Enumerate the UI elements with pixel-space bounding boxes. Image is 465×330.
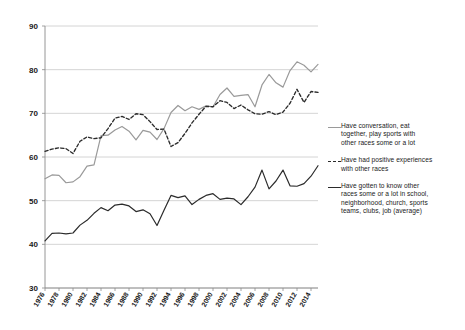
x-axis-tick-label: 1980 bbox=[60, 291, 74, 308]
x-axis-tick: 1996 bbox=[172, 291, 186, 308]
x-axis-tick-label: 2000 bbox=[200, 291, 214, 308]
x-axis-tick-label: 2014 bbox=[298, 291, 312, 308]
y-axis-tick-label: 90 bbox=[29, 22, 38, 31]
legend-label-1: Have conversation, eat together, play sp… bbox=[341, 122, 415, 147]
y-axis-tick-label: 60 bbox=[29, 153, 38, 162]
line-chart: 3040506070809019761978198019821984198619… bbox=[0, 0, 465, 330]
x-axis-tick-label: 1994 bbox=[158, 291, 172, 308]
x-axis-tick: 2010 bbox=[270, 291, 284, 308]
x-axis-tick: 1990 bbox=[130, 291, 144, 308]
x-axis-tick: 1976 bbox=[32, 291, 46, 308]
x-axis-tick: 1978 bbox=[46, 291, 60, 308]
legend-swatch-2-icon bbox=[328, 157, 341, 166]
x-axis-tick: 2012 bbox=[284, 291, 298, 308]
x-axis-tick-label: 1992 bbox=[144, 291, 158, 308]
legend-swatch-3-icon bbox=[328, 183, 341, 192]
series-line-2 bbox=[45, 89, 318, 153]
x-axis-tick-label: 1982 bbox=[74, 291, 88, 308]
x-axis-tick-label: 2010 bbox=[270, 291, 284, 308]
x-axis-tick: 1980 bbox=[60, 291, 74, 308]
x-axis-tick-label: 2004 bbox=[228, 291, 242, 308]
legend-item-3: Have gotten to know other races some or … bbox=[328, 182, 465, 216]
x-axis-tick: 1988 bbox=[116, 291, 130, 308]
x-axis-tick: 2006 bbox=[242, 291, 256, 308]
x-axis-tick-label: 2008 bbox=[256, 291, 270, 308]
x-axis-tick: 1984 bbox=[88, 291, 102, 308]
x-axis-tick-label: 2012 bbox=[284, 291, 298, 308]
x-axis-tick: 2004 bbox=[228, 291, 242, 308]
series-line-1 bbox=[45, 62, 318, 183]
x-axis-tick-label: 1984 bbox=[88, 291, 102, 308]
y-axis-tick-label: 30 bbox=[29, 284, 38, 293]
legend-item-2: Have had positive experiences with other… bbox=[328, 156, 465, 173]
legend-label-2: Have had positive experiences with other… bbox=[341, 156, 432, 173]
x-axis-tick: 2000 bbox=[200, 291, 214, 308]
legend-item-1: Have conversation, eat together, play sp… bbox=[328, 122, 465, 147]
chart-legend: Have conversation, eat together, play sp… bbox=[328, 122, 465, 225]
x-axis-tick-label: 1988 bbox=[116, 291, 130, 308]
x-axis-tick-label: 1990 bbox=[130, 291, 144, 308]
x-axis-tick-label: 1996 bbox=[172, 291, 186, 308]
y-axis-tick-label: 80 bbox=[29, 66, 38, 75]
x-axis-tick: 1994 bbox=[158, 291, 172, 308]
y-axis-tick-label: 40 bbox=[29, 240, 38, 249]
x-axis-tick-label: 2002 bbox=[214, 291, 228, 308]
x-axis-tick-label: 2006 bbox=[242, 291, 256, 308]
legend-label-3: Have gotten to know other races some or … bbox=[341, 182, 428, 216]
x-axis-tick: 1986 bbox=[102, 291, 116, 308]
legend-swatch-1-icon bbox=[328, 123, 341, 132]
x-axis-tick-label: 1978 bbox=[46, 291, 60, 308]
x-axis-tick: 2002 bbox=[214, 291, 228, 308]
x-axis-tick-label: 1998 bbox=[186, 291, 200, 308]
x-axis-tick: 2008 bbox=[256, 291, 270, 308]
x-axis-tick-label: 1976 bbox=[32, 291, 46, 308]
y-axis-tick-label: 70 bbox=[29, 109, 38, 118]
x-axis-tick: 1982 bbox=[74, 291, 88, 308]
x-axis-tick: 2014 bbox=[298, 291, 312, 308]
x-axis-tick: 1992 bbox=[144, 291, 158, 308]
y-axis-tick-label: 50 bbox=[29, 197, 38, 206]
series-line-3 bbox=[45, 166, 318, 241]
x-axis-tick: 1998 bbox=[186, 291, 200, 308]
x-axis-tick-label: 1986 bbox=[102, 291, 116, 308]
